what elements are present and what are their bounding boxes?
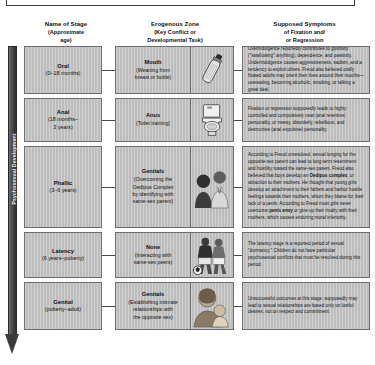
erogenous-zone-cell[interactable]: None (Interacting withsame-sex peers) [115, 232, 190, 278]
toilet-icon [191, 99, 233, 141]
symptoms-cell[interactable]: Overindulgence reportedly contributes to… [242, 46, 370, 94]
zone-task-label: (Weaning frombreast or bottle) [135, 67, 171, 80]
connector-line [102, 120, 115, 121]
stage-row: Phallic (3–6 years) Genitals (Overcoming… [0, 146, 375, 228]
stage-age-label: (18 months–3 years) [48, 116, 78, 130]
illustration-cell [190, 232, 234, 278]
connector-line [234, 120, 242, 121]
stage-name-text: Genital (puberty–adult) [43, 298, 83, 314]
zone-text: Genitals (Overcoming theOedipus Complexb… [129, 168, 176, 205]
illustration-cell [190, 46, 234, 94]
symptoms-text: Overindulgence reportedly contributes to… [243, 46, 369, 94]
connector-line [234, 187, 242, 188]
header-zone: Erogenous Zone (Key Conflict orDevelopme… [115, 20, 235, 45]
symptoms-cell[interactable]: Unsuccessful outcomes at this stage, sup… [242, 282, 370, 330]
column-headers: Name of Stage (Approximateage) Erogenous… [0, 20, 375, 46]
stage-age-label: (3–6 years) [49, 187, 76, 193]
connector-line [102, 306, 115, 307]
zone-name-label: None [134, 244, 173, 252]
zone-task-label: (Toilet training) [136, 120, 170, 126]
symptoms-cell[interactable]: According to Freud unresolved, sexual lo… [242, 146, 370, 228]
stage-name-label: Oral [46, 62, 81, 70]
stage-age-label: (puberty–adult) [45, 306, 81, 312]
stage-row: Anal (18 months–3 years) Anus (Toilet tr… [0, 98, 375, 142]
connector-line [102, 255, 115, 256]
stage-name-cell[interactable]: Oral (0–18 months) [24, 46, 102, 94]
stage-age-label: (0–18 months) [46, 70, 81, 76]
connector-line [234, 306, 242, 307]
zone-task-label: (Overcoming theOedipus Complexby identif… [132, 176, 173, 204]
symptoms-cell[interactable]: Fixation or regression supposedly leads … [242, 98, 370, 142]
stage-age-label: (6 years–puberty) [42, 255, 84, 261]
zone-text: None (Interacting withsame-sex peers) [131, 244, 176, 267]
stage-name-text: Latency (6 years–puberty) [40, 247, 86, 263]
header-symptoms-sub: of Fixation and/or Regression [284, 29, 325, 43]
header-stage: Name of Stage (Approximateage) [22, 20, 110, 45]
header-symptoms-title: Supposed Symptoms [273, 20, 335, 27]
stage-name-text: Anal (18 months–3 years) [46, 108, 80, 131]
erogenous-zone-cell[interactable]: Mouth (Weaning frombreast or bottle) [115, 46, 190, 94]
zone-name-label: Anus [136, 112, 170, 120]
erogenous-zone-cell[interactable]: Genitals (Establishing intimaterelations… [115, 282, 190, 330]
stage-row: Oral (0–18 months) Mouth (Weaning frombr… [0, 46, 375, 94]
illustration-cell [190, 282, 234, 330]
embracing-couple-icon [191, 283, 233, 329]
connector-line [102, 187, 115, 188]
zone-task-label: (Interacting withsame-sex peers) [134, 252, 173, 265]
stage-name-label: Phallic [49, 179, 76, 187]
zone-task-label: (Establishing intimaterelationships with… [128, 299, 177, 320]
top-caption-box: Freud proposed that personality develops… [6, 0, 355, 6]
illustration-cell [190, 146, 234, 228]
erogenous-zone-cell[interactable]: Anus (Toilet training) [115, 98, 190, 142]
header-symptoms: Supposed Symptoms of Fixation and/or Reg… [237, 20, 372, 45]
symptoms-text: Unsuccessful outcomes at this stage, sup… [243, 293, 369, 320]
zone-text: Mouth (Weaning frombreast or bottle) [132, 59, 174, 82]
header-zone-sub: (Key Conflict orDevelopmental Task) [147, 29, 203, 43]
stage-name-label: Anal [48, 108, 78, 116]
symptoms-text: Fixation or regression supposedly leads … [243, 103, 369, 137]
soccer-players-icon [191, 233, 233, 277]
stage-name-text: Oral (0–18 months) [44, 62, 83, 78]
stage-name-label: Genital [45, 298, 81, 306]
erogenous-zone-cell[interactable]: Genitals (Overcoming theOedipus Complexb… [115, 146, 190, 228]
symptoms-cell[interactable]: The latency stage is a reported period o… [242, 232, 370, 278]
zone-name-label: Genitals [132, 168, 173, 176]
stage-name-text: Phallic (3–6 years) [47, 179, 78, 195]
connector-line [234, 255, 242, 256]
zone-text: Genitals (Establishing intimaterelations… [125, 291, 180, 321]
baby-bottle-icon [191, 47, 233, 93]
stage-name-cell[interactable]: Latency (6 years–puberty) [24, 232, 102, 278]
stage-row: Latency (6 years–puberty) None (Interact… [0, 232, 375, 278]
zone-text: Anus (Toilet training) [133, 112, 173, 127]
header-stage-sub: (Approximateage) [48, 29, 84, 43]
stage-name-cell[interactable]: Genital (puberty–adult) [24, 282, 102, 330]
stage-name-label: Latency [42, 247, 84, 255]
parent-and-child-icon [191, 147, 233, 227]
stage-name-cell[interactable]: Phallic (3–6 years) [24, 146, 102, 228]
symptoms-text: According to Freud unresolved, sexual lo… [243, 149, 369, 224]
header-stage-title: Name of Stage [45, 20, 87, 27]
connector-line [102, 70, 115, 71]
symptoms-text: The latency stage is a reported period o… [243, 238, 369, 272]
stage-name-cell[interactable]: Anal (18 months–3 years) [24, 98, 102, 142]
illustration-cell [190, 98, 234, 142]
zone-name-label: Mouth [135, 59, 171, 67]
axis-arrowhead-icon [5, 334, 19, 354]
header-zone-title: Erogenous Zone [151, 20, 199, 27]
stage-row: Genital (puberty–adult) Genitals (Establ… [0, 282, 375, 330]
zone-name-label: Genitals [128, 291, 177, 299]
connector-line [234, 70, 242, 71]
